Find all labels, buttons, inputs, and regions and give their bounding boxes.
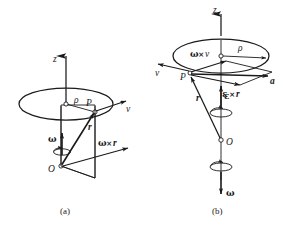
point-p-label-a: P	[85, 98, 92, 108]
svg-text:r: r	[113, 138, 117, 148]
shaded-plane-region	[61, 105, 95, 178]
origin-o-label-b: O	[226, 137, 233, 147]
panel-a: z ρ P v r O ω ω × r	[19, 54, 131, 216]
rho-label-a: ρ	[73, 95, 79, 105]
acceleration-label-b: a	[270, 76, 275, 86]
circle-center-marker-b	[219, 54, 223, 58]
omega-label-a: ω	[48, 134, 57, 144]
rho-radius-line-b	[223, 56, 266, 58]
figure-root: z ρ P v r O ω ω × r	[0, 0, 283, 230]
r-vector-a	[61, 113, 94, 166]
rho-label-b: ρ	[237, 43, 243, 53]
velocity-label-b: v	[155, 68, 160, 78]
plane-edge-lines-a	[61, 106, 95, 178]
svg-text:×: ×	[229, 90, 235, 99]
circle-center-marker-a	[64, 102, 68, 106]
omega-cross-v-label-b: ω × v	[190, 49, 210, 59]
r-vector-b	[191, 77, 221, 140]
panel-b: z ρ P v ω × v ε × r a	[155, 5, 275, 216]
epsilon-cross-r-vector-b	[191, 75, 240, 85]
acceleration-vector-b	[191, 74, 268, 76]
r-label-a: r	[88, 122, 92, 132]
origin-o-label-a: O	[48, 164, 55, 174]
origin-o-marker-b	[219, 138, 223, 142]
z-axis-label-b: z	[212, 5, 217, 15]
epsilon-label-b: ε	[224, 91, 229, 101]
caption-b: (b)	[212, 206, 223, 216]
physics-figure: z ρ P v r O ω ω × r	[0, 0, 283, 230]
svg-text:r: r	[236, 89, 240, 99]
z-axis-label-a: z	[52, 54, 57, 64]
svg-text:×: ×	[198, 50, 204, 59]
r-label-b: r	[196, 93, 200, 103]
svg-text:v: v	[205, 49, 210, 59]
omega-cross-r-label-a: ω × r	[98, 138, 117, 148]
caption-a: (a)	[60, 206, 70, 216]
omega-label-b: ω	[226, 188, 235, 198]
omega-cross-r-vector-a	[63, 148, 128, 166]
svg-text:×: ×	[106, 139, 112, 148]
point-p-label-b: P	[179, 72, 186, 82]
velocity-label-a: v	[126, 104, 131, 114]
